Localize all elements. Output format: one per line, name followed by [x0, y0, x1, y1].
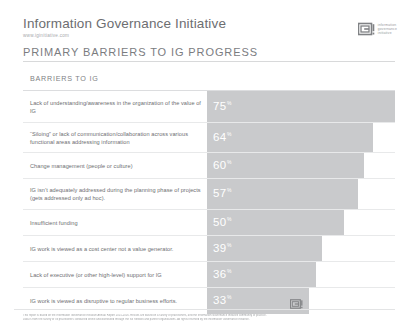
- bar-value-number: 33: [213, 294, 227, 306]
- bar-value-label: 57%: [213, 188, 232, 200]
- row-label: IG isn’t adequately addressed during the…: [30, 186, 202, 202]
- footer-line-2: Data is from the survey of IG practition…: [23, 318, 391, 322]
- bar-value-label: 33%: [213, 295, 232, 307]
- logo-wordmark: information governance initiative: [378, 23, 397, 36]
- table-row: Lack of executive (or other high-level) …: [23, 262, 395, 288]
- value-bar: 64%: [207, 123, 373, 152]
- value-bar: 60%: [207, 153, 364, 178]
- row-label: Change management (people or culture): [30, 162, 202, 170]
- value-bar: 39%: [207, 236, 322, 261]
- page-title: PRIMARY BARRIERS TO IG PROGRESS: [23, 46, 258, 58]
- bar-value-unit: %: [227, 187, 232, 193]
- column-header-barriers: BARRIERS TO IG: [30, 74, 99, 83]
- brand-block: Information Governance Initiative www.ig…: [23, 16, 226, 39]
- table-row: IG work is viewed as a cost center not a…: [23, 236, 395, 262]
- logo-word-line-3: initiative: [378, 31, 397, 35]
- bar-value-number: 60: [213, 159, 227, 171]
- bar-value-number: 36: [213, 268, 227, 280]
- table-row: Lack of understanding/awareness in the o…: [23, 91, 395, 123]
- ig-logo-icon: [290, 296, 303, 307]
- page-footer: This report is based on the Information …: [23, 314, 391, 322]
- footer-divider: [14, 309, 395, 310]
- bar-value-unit: %: [227, 159, 232, 165]
- bar-value-unit: %: [227, 216, 232, 222]
- bar-value-label: 50%: [213, 217, 232, 229]
- row-label: Lack of executive (or other high-level) …: [30, 271, 202, 279]
- value-bar: 33%: [207, 288, 309, 314]
- table-row: IG work is viewed as disruptive to regul…: [23, 288, 395, 314]
- value-bar: 57%: [207, 179, 358, 209]
- bar-value-unit: %: [227, 268, 232, 274]
- barriers-chart: BARRIERS TO IG Lack of understanding/awa…: [23, 66, 395, 306]
- value-bar: 75%: [207, 91, 395, 122]
- table-row: “Siloing” or lack of communication/colla…: [23, 123, 395, 153]
- table-row: Change management (people or culture)60%: [23, 153, 395, 179]
- row-label: IG work is viewed as a cost center not a…: [30, 245, 202, 253]
- bar-value-number: 57: [213, 187, 227, 199]
- brand-url[interactable]: www.iginitiative.com: [23, 33, 226, 39]
- bar-value-number: 75: [213, 100, 227, 112]
- header-bar-spacer: [207, 66, 395, 90]
- bar-value-number: 50: [213, 216, 227, 228]
- bar-value-label: 39%: [213, 243, 232, 255]
- bar-value-label: 75%: [213, 101, 232, 113]
- row-label: IG work is viewed as disruptive to regul…: [30, 297, 202, 305]
- table-header-row: BARRIERS TO IG: [23, 66, 395, 91]
- bar-value-unit: %: [227, 100, 232, 106]
- title-divider: [23, 61, 395, 62]
- organization-logo: information governance initiative: [358, 22, 397, 36]
- value-bar: 36%: [207, 262, 316, 287]
- bar-value-unit: %: [227, 242, 232, 248]
- table-row: Insufficient funding50%: [23, 210, 395, 236]
- bar-value-unit: %: [227, 131, 232, 137]
- page-header: Information Governance Initiative www.ig…: [0, 0, 409, 66]
- ig-logo-icon: [358, 22, 375, 36]
- bar-value-number: 39: [213, 242, 227, 254]
- brand-title: Information Governance Initiative: [23, 16, 226, 31]
- row-label: “Siloing” or lack of communication/colla…: [30, 130, 202, 146]
- row-label: Lack of understanding/awareness in the o…: [30, 99, 202, 115]
- bar-value-label: 64%: [213, 132, 232, 144]
- value-bar: 50%: [207, 210, 344, 235]
- bar-value-number: 64: [213, 131, 227, 143]
- bar-value-label: 60%: [213, 160, 232, 172]
- table-row: IG isn’t adequately addressed during the…: [23, 179, 395, 210]
- bar-value-unit: %: [227, 294, 232, 300]
- row-label: Insufficient funding: [30, 219, 202, 227]
- bar-value-label: 36%: [213, 269, 232, 281]
- chart-rows: Lack of understanding/awareness in the o…: [23, 91, 395, 314]
